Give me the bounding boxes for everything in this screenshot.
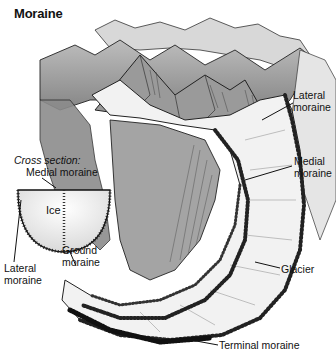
label-medial-moraine: Medial moraine [294, 155, 332, 179]
cross-section-title: Cross section: [14, 154, 81, 166]
label-terminal-moraine: Terminal moraine [219, 339, 300, 351]
cs-label-lateral-moraine: Lateral moraine [4, 262, 42, 286]
label-lateral-moraine: Lateral moraine [293, 89, 331, 113]
cs-label-medial-moraine: Medial moraine [26, 166, 98, 178]
diagram-title: Moraine [14, 6, 62, 21]
cs-label-ice: Ice [46, 204, 61, 216]
cs-label-ground-moraine: Ground moraine [62, 244, 100, 268]
moraine-diagram: Moraine Cross section: Medial moraine Ic… [0, 0, 336, 354]
label-glacier: Glacier [281, 263, 314, 275]
